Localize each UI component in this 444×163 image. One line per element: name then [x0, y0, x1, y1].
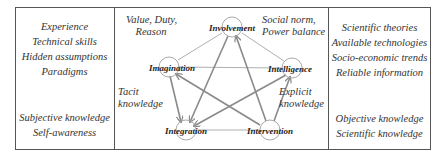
outer-edges: [178, 33, 284, 130]
annotation-value-duty: Value, Duty, Reason: [126, 14, 176, 38]
annotation-social-norm: Social norm, Power balance: [262, 14, 325, 38]
node-imagination: Imagination: [149, 63, 195, 73]
node-integration: Integration: [165, 126, 207, 136]
arrow-edges: [170, 36, 290, 126]
annotation-explicit-knowledge: Explicit knowledge: [279, 86, 324, 110]
node-involvement: Involvement: [209, 23, 255, 33]
node-intervention: Intervention: [247, 126, 293, 136]
node-intelligence: Intelligence: [268, 64, 312, 74]
annotation-tacit-knowledge: Tacit knowledge: [118, 86, 163, 110]
